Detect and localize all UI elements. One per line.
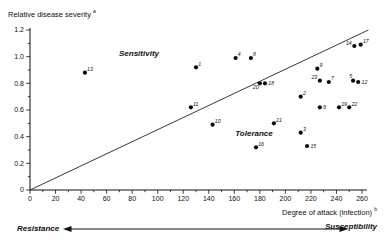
x-tick-label: 160 — [228, 195, 240, 202]
point-label-11: 11 — [193, 101, 198, 107]
point-label-5: 5 — [349, 73, 352, 79]
x-tick-label: 240 — [331, 195, 343, 202]
x-tick-label: 220 — [305, 195, 317, 202]
data-point-14 — [352, 44, 356, 48]
x-tick-label: 120 — [177, 195, 189, 202]
y-axis-title: Relative disease severity a — [8, 8, 96, 19]
footer-label-resistance: Resistance — [17, 224, 59, 233]
point-label-18: 18 — [268, 80, 274, 86]
point-label-8: 8 — [253, 51, 256, 57]
x-axis-title-superscript: b — [374, 206, 377, 212]
point-label-9: 9 — [320, 62, 323, 68]
y-tick-label: 0.4 — [14, 133, 24, 140]
point-label-20: 20 — [252, 84, 259, 90]
y-axis-title-text: Relative disease severity — [8, 10, 91, 19]
scatter-figure: 02040608010012014016018020022024026000.2… — [0, 0, 385, 246]
y-tick-label: 1.2 — [14, 26, 24, 33]
point-label-16: 16 — [258, 141, 264, 147]
region-label-sensitivity: Sensitivity — [103, 49, 175, 58]
x-tick-label: 0 — [28, 195, 32, 202]
diagonal-reference-line — [30, 30, 368, 190]
point-label-19: 19 — [341, 101, 347, 107]
point-label-3: 3 — [303, 126, 306, 132]
point-label-4: 4 — [238, 51, 241, 57]
y-tick-label: 0.2 — [14, 160, 24, 167]
point-label-1: 1 — [198, 61, 201, 67]
x-axis-title-text: Degree of attack (infection) — [282, 208, 372, 217]
point-label-17: 17 — [363, 38, 370, 44]
y-tick-label: 1.0 — [14, 53, 24, 60]
x-tick-label: 40 — [77, 195, 85, 202]
point-label-2: 2 — [302, 90, 306, 96]
footer-label-susceptibility: Susceptibility — [325, 222, 377, 231]
data-point-18 — [263, 81, 267, 85]
point-label-21: 21 — [275, 117, 282, 123]
point-label-10: 10 — [215, 118, 221, 124]
data-point-23 — [318, 79, 322, 83]
left-arrowhead-icon — [63, 226, 72, 232]
x-tick-label: 20 — [52, 195, 60, 202]
x-tick-label: 140 — [203, 195, 215, 202]
region-label-tolerance: Tolerance — [222, 129, 286, 138]
data-point-15 — [305, 144, 309, 148]
y-tick-label: 0 — [20, 186, 24, 193]
point-label-6: 6 — [323, 104, 326, 110]
y-tick-label: 0.6 — [14, 106, 24, 113]
x-axis-title: Degree of attack (infection) b — [282, 206, 377, 217]
point-label-13: 13 — [87, 66, 93, 72]
x-tick-label: 100 — [152, 195, 164, 202]
y-tick-label: 0.8 — [14, 80, 24, 87]
data-point-6 — [318, 105, 322, 109]
x-tick-label: 60 — [103, 195, 111, 202]
x-tick-label: 200 — [280, 195, 292, 202]
point-label-12: 12 — [362, 79, 368, 85]
point-label-15: 15 — [310, 143, 316, 149]
x-tick-label: 180 — [254, 195, 266, 202]
x-tick-label: 260 — [356, 195, 368, 202]
point-label-14: 14 — [346, 40, 352, 46]
y-axis-title-superscript: a — [93, 8, 96, 14]
point-label-23: 23 — [310, 74, 317, 80]
x-tick-label: 80 — [128, 195, 136, 202]
point-label-22: 22 — [350, 101, 357, 107]
data-point-12 — [356, 80, 360, 84]
point-label-7: 7 — [331, 75, 335, 81]
